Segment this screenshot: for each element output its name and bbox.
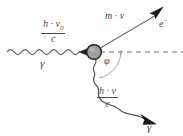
scattered-photon-symbol: γ <box>147 122 151 133</box>
electron-charge-sign: − <box>163 17 167 25</box>
scattered-momentum-numerator: h · ν <box>97 86 118 97</box>
compton-scattering-figure: h · ν0 c γ m · v e− φ h · ν c γ <box>0 0 183 136</box>
scattering-vertex <box>87 45 102 60</box>
diagram-canvas <box>0 0 183 136</box>
scattered-momentum-denominator: c <box>97 99 118 110</box>
incident-momentum-denominator: c <box>41 34 65 45</box>
recoil-electron-arrowhead <box>150 7 163 19</box>
electron-momentum-label: m · v <box>105 11 124 21</box>
incident-photon-symbol: γ <box>40 58 44 69</box>
incident-photon-ray <box>7 48 89 55</box>
incident-momentum-subscript: 0 <box>60 24 64 32</box>
incident-photon-momentum-label: h · ν0 c <box>41 19 65 45</box>
incident-momentum-numerator: h · ν0 <box>41 19 65 32</box>
electron-symbol: e− <box>159 18 167 29</box>
scattering-angle-arc <box>99 50 121 78</box>
scattering-angle-label: φ <box>104 56 110 66</box>
scattered-photon-momentum-label: h · ν c <box>97 86 118 109</box>
